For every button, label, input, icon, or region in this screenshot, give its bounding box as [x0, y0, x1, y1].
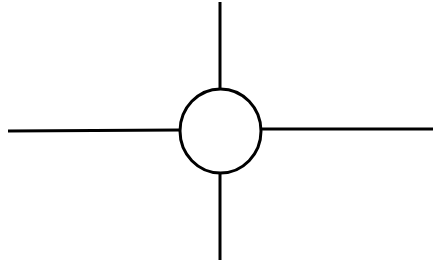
diagram-canvas — [0, 0, 438, 268]
center-circle — [180, 89, 261, 173]
line-left — [8, 130, 180, 131]
